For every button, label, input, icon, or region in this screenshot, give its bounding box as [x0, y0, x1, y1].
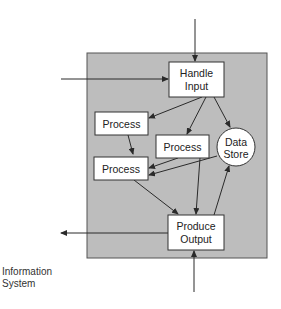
node-handle-input: Handle Input — [169, 62, 224, 97]
node-produce-output: Produce Output — [168, 215, 224, 250]
system-label: Information System — [2, 266, 52, 290]
system-label-line-1: Information — [2, 266, 52, 278]
svg-text:Store: Store — [223, 148, 248, 160]
svg-text:Output: Output — [180, 233, 212, 245]
svg-text:Input: Input — [185, 80, 208, 92]
svg-text:Process: Process — [102, 163, 140, 175]
node-process-2: Process — [156, 135, 209, 158]
information-system-diagram: Handle Input Process Process Process Dat… — [0, 0, 281, 309]
node-process-3: Process — [94, 157, 148, 180]
system-label-line-2: System — [2, 278, 52, 290]
svg-text:Process: Process — [164, 141, 202, 153]
svg-text:Produce: Produce — [176, 220, 215, 232]
node-data-store: Data Store — [217, 128, 255, 166]
node-process-1: Process — [95, 112, 148, 135]
svg-text:Process: Process — [103, 118, 141, 130]
svg-text:Data: Data — [225, 136, 247, 148]
svg-text:Handle: Handle — [180, 67, 213, 79]
